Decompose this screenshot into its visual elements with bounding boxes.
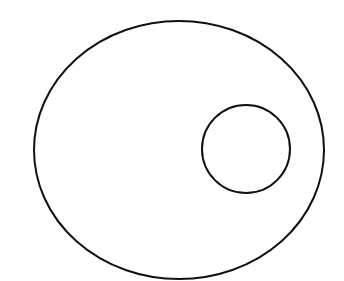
figure-svg: [0, 0, 344, 281]
canvas-background: [0, 0, 344, 281]
figure-canvas: [0, 0, 344, 281]
